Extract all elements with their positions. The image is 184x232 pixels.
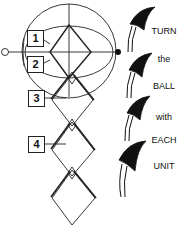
unit-4-diamond — [52, 170, 95, 225]
instruction-word-with: with — [144, 112, 184, 122]
unit-1-diamond — [50, 25, 91, 78]
instruction-word-ball: BALL — [144, 81, 184, 91]
step-box-1: 1 — [27, 30, 44, 47]
unit-2-diamond — [52, 74, 93, 126]
instruction-word-each: EACH — [144, 135, 184, 145]
left-knob-icon — [2, 49, 9, 56]
right-knob-icon — [115, 49, 121, 55]
turn-arrow-icon-4 — [119, 141, 146, 197]
instruction-word-unit: UNIT — [144, 161, 184, 171]
instruction-word-turn: TURN — [144, 26, 184, 36]
step-box-2: 2 — [27, 56, 44, 73]
instruction-word-the: the — [144, 54, 184, 64]
step-box-4: 4 — [28, 136, 45, 153]
step-box-3: 3 — [28, 90, 45, 107]
